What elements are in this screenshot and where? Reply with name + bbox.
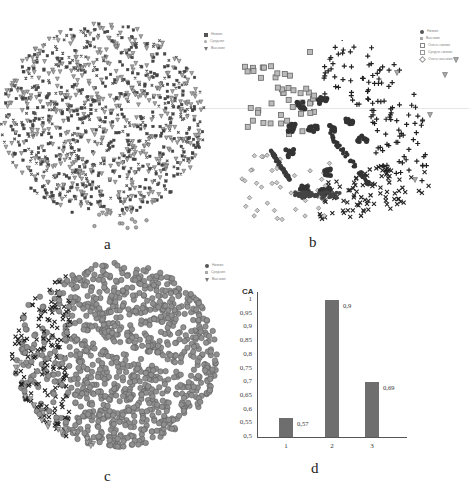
x-marker-icon <box>205 271 208 274</box>
bar-value-label: 0,57 <box>297 420 308 427</box>
legend-item: Высокие <box>420 35 453 42</box>
y-tick-label: 0,5 <box>228 432 252 440</box>
legend-label: Высокие <box>211 45 225 52</box>
y-tick-label: 0,6 <box>228 405 252 413</box>
panel-label-d: d <box>311 460 319 477</box>
legend-label: Высокие <box>426 35 440 42</box>
legend-item: Низкие <box>420 28 453 35</box>
legend-label: Средние <box>211 269 225 276</box>
bar-value-label: 0,9 <box>343 302 351 309</box>
y-tick-label: 0,65 <box>228 391 252 399</box>
scatter-panel-c <box>0 255 230 455</box>
legend-label: Очень высокие <box>428 56 453 63</box>
panel-label-a: a <box>104 236 111 253</box>
y-tick-label: 0,9 <box>228 322 252 330</box>
y-tick-label: 1 <box>228 295 252 303</box>
legend-c: Низкие Средние Высокие <box>205 262 226 283</box>
scatter-panel-b <box>230 40 469 230</box>
legend-item: Низкие <box>205 262 226 269</box>
cross-marker-icon <box>204 40 207 43</box>
bar <box>325 300 339 437</box>
legend-item: Высокие <box>205 276 226 283</box>
legend-label: Средние <box>210 38 224 45</box>
legend-item: Средне-низкие <box>420 49 453 56</box>
legend-item: Средние <box>205 269 226 276</box>
y-axis-line <box>257 292 258 438</box>
legend-label: Низкие <box>211 31 223 38</box>
legend-item: Низкие <box>204 31 225 38</box>
panel-label-b: b <box>309 234 317 251</box>
square-marker-icon <box>420 43 425 48</box>
triangle-marker-icon <box>204 47 208 51</box>
x-tick-label: 1 <box>279 442 293 450</box>
legend-item: Средние <box>204 38 225 45</box>
circle-marker-icon <box>420 30 424 34</box>
y-tick-label: 0,75 <box>228 364 252 372</box>
legend-label: Средне-низкие <box>428 49 452 56</box>
square-marker-icon <box>204 33 208 37</box>
legend-item: Высокие <box>204 45 225 52</box>
x-tick-label: 3 <box>365 442 379 450</box>
legend-label: Низкие <box>427 28 439 35</box>
plus-marker-icon <box>420 37 423 40</box>
circle-marker-icon <box>205 264 209 268</box>
diamond-marker-icon <box>419 56 426 63</box>
scatter-panel-a <box>0 20 220 235</box>
legend-b: Низкие Высокие Очень низкие Средне-низки… <box>420 28 453 63</box>
scatter-plot-b <box>230 40 469 230</box>
legend-label: Высокие <box>212 276 226 283</box>
y-tick-label: 0,7 <box>228 377 252 385</box>
bar <box>365 382 379 437</box>
y-tick-label: 0,8 <box>228 350 252 358</box>
panel-label-c: c <box>104 468 111 485</box>
x-axis-line <box>257 437 407 438</box>
x-marker-icon <box>420 50 425 55</box>
scatter-plot-c <box>0 255 230 455</box>
legend-item: Очень низкие <box>420 42 453 49</box>
legend-label: Очень низкие <box>428 42 450 49</box>
y-axis-label: CA <box>242 287 254 296</box>
triangle-marker-icon <box>205 278 209 282</box>
scatter-plot-a <box>0 20 220 235</box>
y-tick-label: 0,55 <box>228 418 252 426</box>
bar-value-label: 0,69 <box>383 384 394 391</box>
x-tick-label: 2 <box>325 442 339 450</box>
bar <box>279 418 293 437</box>
legend-a: Низкие Средние Высокие <box>204 31 225 52</box>
y-tick-label: 0,95 <box>228 309 252 317</box>
legend-item: Очень высокие <box>420 56 453 63</box>
y-tick-label: 0,85 <box>228 336 252 344</box>
legend-label: Низкие <box>212 262 224 269</box>
